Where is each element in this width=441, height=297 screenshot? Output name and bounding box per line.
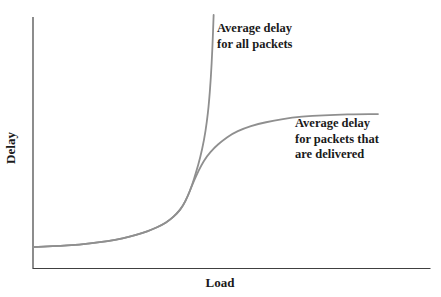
delay-vs-load-figure: Average delay for all packets Average de… [0, 0, 441, 297]
curve-average-delay-all-packets [33, 15, 214, 247]
x-axis-label: Load [190, 275, 250, 291]
label-average-delay-delivered-packets: Average delay for packets that are deliv… [295, 116, 379, 163]
label-average-delay-all-packets: Average delay for all packets [217, 21, 292, 52]
y-axis-label: Delay [3, 132, 19, 164]
